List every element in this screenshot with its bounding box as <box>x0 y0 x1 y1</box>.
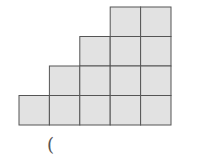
grid-square <box>80 66 110 96</box>
grid-square <box>141 7 171 37</box>
grid-square <box>49 66 79 96</box>
grid-square <box>80 96 110 126</box>
grid-square <box>19 96 49 126</box>
grid-square <box>49 96 79 126</box>
grid-square <box>80 37 110 67</box>
answer-parenthesis: ( <box>47 136 54 154</box>
grid-square <box>110 96 140 126</box>
staircase-grid <box>0 0 199 166</box>
grid-square <box>110 7 140 37</box>
grid-square <box>141 37 171 67</box>
grid-square <box>141 66 171 96</box>
grid-square <box>141 96 171 126</box>
grid-square <box>110 37 140 67</box>
grid-square <box>110 66 140 96</box>
